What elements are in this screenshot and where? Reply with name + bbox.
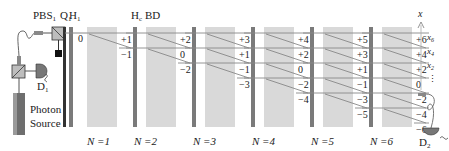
position-label: +2	[180, 34, 191, 45]
position-label: −1	[121, 49, 132, 60]
pbs1-label: PBS1	[33, 9, 57, 23]
photon-source-label-1: Photon	[30, 103, 62, 115]
position-label: −1	[239, 64, 250, 75]
hwp-hc	[251, 27, 255, 127]
position-label: 0	[180, 49, 185, 60]
position-label: +3	[357, 49, 368, 60]
herald-beam-splitter	[12, 65, 25, 78]
position-label: +1	[239, 49, 250, 60]
step-label: N =1	[86, 135, 110, 147]
axis-label: x	[417, 8, 423, 19]
bd-label: BD	[145, 9, 160, 21]
position-label: −4	[298, 94, 309, 105]
beam-dump-icon	[55, 50, 62, 57]
hwp-hc	[192, 27, 196, 127]
step-6: +6+4+20−2−4−6N =6	[362, 27, 429, 147]
position-label: −3	[239, 79, 250, 90]
step-2: +20−2N =2	[126, 27, 193, 147]
d1-label: D1	[37, 80, 49, 94]
axis-x4: x4	[426, 46, 434, 57]
hc-label: Hc	[131, 9, 142, 23]
hwp-h1	[69, 27, 73, 127]
step-label: N =3	[192, 135, 217, 147]
position-label: −3	[357, 94, 368, 105]
hwp-hc	[133, 27, 137, 127]
step-4: +4+20−2−4N =4	[244, 27, 311, 147]
position-label: +2	[298, 49, 309, 60]
step-1: +1−1N =1	[86, 27, 134, 147]
hwp-hc	[369, 27, 373, 127]
position-label: +4	[298, 34, 309, 45]
axis-x2: x2	[426, 60, 434, 71]
step-label: N =5	[310, 135, 335, 147]
quantum-walk-diagram: Photon Source D1 PBS1 Q1 H1 0 Hc BD +1−1…	[0, 0, 449, 151]
photon-source: Photon Source	[13, 93, 62, 135]
step-label: N =6	[369, 135, 394, 147]
position-label: −4	[416, 109, 427, 120]
photon-source-label-2: Source	[30, 117, 61, 129]
step-label: N =2	[133, 135, 158, 147]
position-label: 0	[298, 64, 303, 75]
position-label: −5	[357, 109, 368, 120]
step-5: +5+3+1−1−3−5N =5	[303, 27, 370, 147]
position-label: +1	[357, 64, 368, 75]
position-label: −1	[357, 79, 368, 90]
position-label: −2	[298, 79, 309, 90]
step-3: +3+1−1−3N =3	[185, 27, 252, 147]
hwp-hc	[310, 27, 314, 127]
axis-x6: x6	[426, 32, 434, 43]
position-label: +5	[357, 34, 368, 45]
walk-steps: +1−1N =1+20−2N =2+3+1−1−3N =3+4+20−2−4N …	[65, 27, 429, 147]
position-label: +1	[121, 34, 132, 45]
optical-fiber	[17, 31, 43, 65]
start-position-label: 0	[78, 33, 83, 44]
axis-dots: ⋮	[428, 74, 437, 84]
h1-label: H1	[69, 9, 81, 23]
position-label: −2	[180, 64, 191, 75]
qwp-q1	[63, 27, 66, 127]
step-label: N =4	[251, 135, 276, 147]
d2-label: D2	[419, 136, 431, 150]
position-label: +3	[239, 34, 250, 45]
position-label: 0	[416, 79, 421, 90]
